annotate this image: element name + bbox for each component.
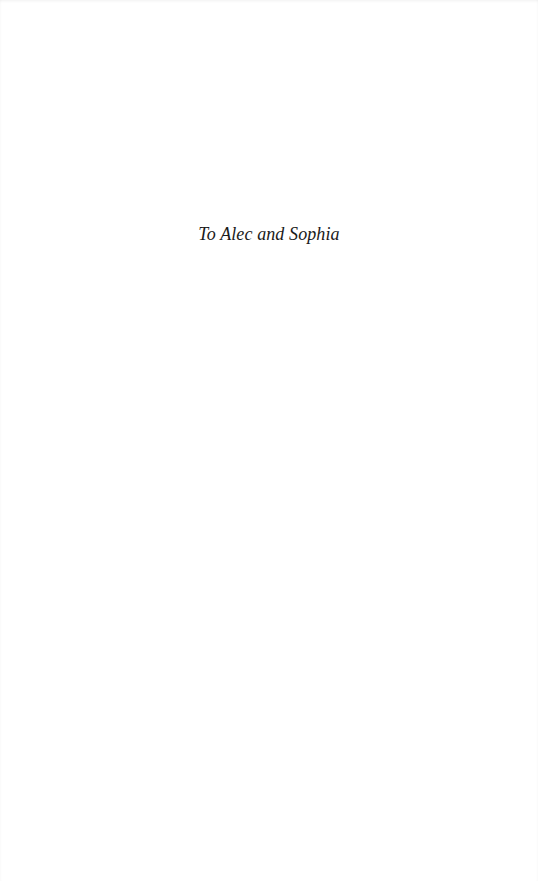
book-page: To Alec and Sophia — [0, 0, 538, 881]
dedication-text: To Alec and Sophia — [0, 222, 538, 246]
